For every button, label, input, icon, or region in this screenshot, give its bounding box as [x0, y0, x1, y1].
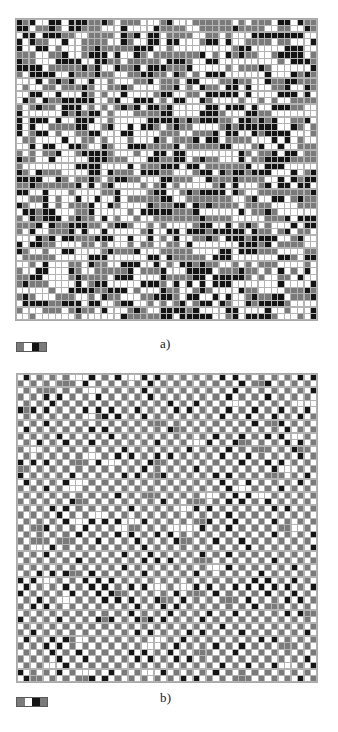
colorbar-segment-1: [25, 698, 33, 706]
colorbar-segment-3: [40, 698, 48, 706]
colorbar-segment-3: [39, 343, 46, 351]
panel-b: b): [0, 366, 338, 732]
panel-label-b: b): [160, 690, 171, 706]
colorbar-a: [16, 342, 47, 352]
colorbar-segment-1: [24, 343, 31, 351]
colorbar-segment-2: [32, 343, 39, 351]
panel-a: a): [0, 0, 338, 366]
colorbar-b: [16, 697, 48, 707]
lattice-grid-b: [16, 373, 318, 683]
colorbar-segment-0: [17, 698, 25, 706]
lattice-grid-a: [15, 18, 318, 321]
colorbar-segment-0: [17, 343, 24, 351]
lattice-canvas-a: [16, 19, 317, 320]
lattice-canvas-b: [17, 374, 317, 682]
colorbar-segment-2: [32, 698, 40, 706]
figure-container: a) b): [0, 0, 338, 732]
panel-label-a: a): [160, 336, 171, 352]
